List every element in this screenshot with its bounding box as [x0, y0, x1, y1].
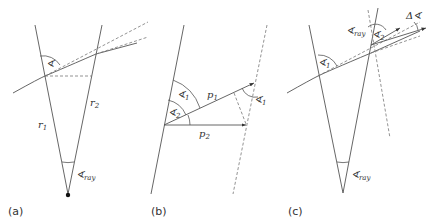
caption-b: (b) [151, 205, 167, 218]
panel-a: ∢ r1 r2 ∢ray (a) [8, 22, 148, 218]
angle1b-label: ∢1 [254, 94, 266, 107]
ray-r1 [35, 25, 68, 194]
delta-label: Δ∢ [405, 10, 423, 21]
r2-label: r2 [90, 97, 100, 110]
ray-label: ∢ray [351, 169, 372, 182]
r1-label: r1 [38, 119, 47, 132]
ray-label: ∢ray [76, 169, 97, 182]
angle1-label: ∢1 [177, 89, 189, 102]
diagram-canvas: ∢ r1 r2 ∢ray (a) ∢1 ∢2 p1 p2 ∢1 (b) [0, 0, 438, 222]
angle1-label: ∢1 [318, 57, 330, 70]
ray-angle-arc [337, 162, 349, 163]
tangent-dashed [45, 22, 148, 76]
wavefront-curve [287, 31, 420, 93]
angle2-label: ∢2 [372, 29, 385, 42]
ray-angle-arc [62, 162, 74, 163]
p1-label: p1 [207, 89, 218, 102]
projection-dashed [234, 93, 246, 124]
angle2-arc-inner [188, 115, 190, 125]
panel-b: ∢1 ∢2 p1 p2 ∢1 (b) [151, 25, 267, 218]
angle2-label: ∢2 [168, 107, 181, 120]
caption-c: (c) [288, 205, 303, 218]
ray-left [309, 25, 343, 193]
tangent-dashed [318, 22, 420, 76]
p2-label: p2 [199, 128, 210, 141]
origin-point [66, 193, 70, 197]
caption-a: (a) [8, 205, 23, 218]
panel-c: ∢1 ∢ray ∢2 Δ∢ ∢ray (c) [287, 8, 426, 218]
ray-top-label: ∢ray [346, 25, 367, 38]
wavefront-curve [13, 43, 137, 93]
dashed-boundary [233, 25, 267, 194]
